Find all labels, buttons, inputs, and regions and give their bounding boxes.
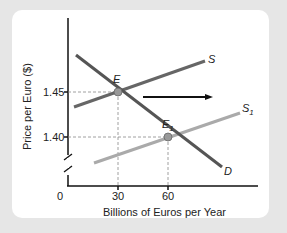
- shift-arrow-icon: [143, 94, 213, 100]
- y-tick-140: 1.40: [43, 131, 64, 143]
- label-s: S: [208, 53, 216, 65]
- x-axis-label: Billions of Euros per Year: [103, 206, 226, 218]
- supply-demand-chart: E E1 S S1 D 1.45 1.40 0 30 60 Billions o…: [0, 0, 287, 233]
- demand-curve-d: [76, 55, 222, 167]
- label-e: E: [113, 73, 121, 85]
- equilibrium-point-e1: [164, 133, 172, 141]
- x-tick-30: 30: [112, 190, 124, 202]
- label-d: D: [224, 165, 232, 177]
- equilibrium-point-e: [114, 88, 122, 96]
- x-tick-60: 60: [162, 190, 174, 202]
- y-tick-145: 1.45: [43, 86, 64, 98]
- y-axis-label: Price per Euro ($): [21, 63, 33, 150]
- axis-break-icon: [62, 154, 74, 175]
- label-s1: S1: [242, 102, 254, 117]
- x-tick-0: 0: [57, 190, 63, 202]
- guide-lines: [68, 92, 168, 186]
- label-e1: E1: [162, 118, 174, 133]
